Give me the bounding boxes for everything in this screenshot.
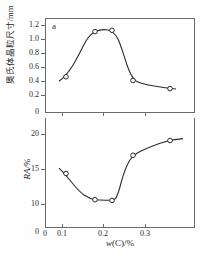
data-point-b-2	[93, 197, 98, 202]
figure-canvas: a 奥氏体晶粒尺寸/mm 1.2 1.0 0.8 0.6 0.4 0.2 0	[0, 0, 206, 256]
x-axis-title: w(C)/%	[45, 238, 195, 248]
data-point-a-4	[131, 78, 136, 83]
panel-a: a 奥氏体晶粒尺寸/mm 1.2 1.0 0.8 0.6 0.4 0.2 0	[0, 0, 206, 122]
data-point-b-5	[168, 138, 173, 143]
data-point-b-4	[131, 153, 136, 158]
data-point-b-3	[110, 198, 115, 203]
panel-b: RA/% 20 15 10 0 0.1 0.2 0.3 0	[0, 110, 206, 256]
x-axis-title-rest: (C)/%	[112, 238, 134, 248]
data-point-a-5	[168, 86, 173, 91]
y-axis-origin-label-b: 0	[17, 228, 39, 236]
curve-path-a	[59, 30, 176, 89]
data-point-a-3	[110, 28, 115, 33]
data-point-a-1	[64, 75, 69, 80]
curve-path-b	[59, 139, 183, 201]
series-curve-a	[0, 0, 206, 122]
data-point-a-2	[93, 29, 98, 34]
data-point-b-1	[64, 171, 69, 176]
